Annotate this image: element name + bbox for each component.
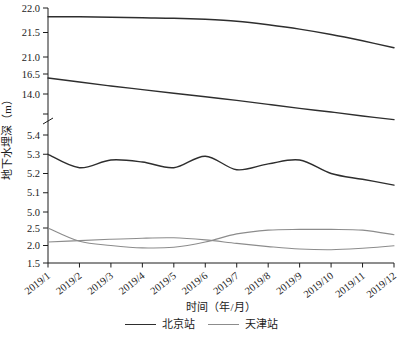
series-line-tianjin-well-2: [48, 238, 394, 250]
y-tick-label: 16.5: [22, 69, 40, 80]
legend-line-swatch: [208, 324, 239, 325]
y-tick-label: 2.0: [27, 240, 40, 251]
legend-line-swatch: [125, 324, 156, 325]
y-tick-label: 5.3: [27, 149, 40, 160]
series-line-beijing-well-1: [48, 17, 394, 48]
y-axis-title: 地下水埋深（m）: [1, 94, 13, 180]
x-tick-label: 2019/12: [364, 270, 398, 300]
y-tick-label: 14.0: [22, 89, 40, 100]
legend: 北京站天津站: [0, 319, 403, 330]
x-tick-label: 2019/7: [211, 270, 241, 297]
legend-label: 北京站: [162, 319, 195, 330]
legend-label: 天津站: [245, 319, 278, 330]
y-tick-label: 5.1: [27, 187, 40, 198]
series-line-beijing-well-3: [48, 154, 394, 185]
x-tick-label: 2019/2: [54, 270, 84, 297]
series-line-tianjin-well-1: [48, 228, 394, 248]
y-tick-label: 22.0: [22, 3, 40, 14]
y-tick-label: 5.0: [27, 207, 40, 218]
x-tick-label: 2019/6: [180, 270, 210, 297]
y-tick-label: 21.5: [22, 27, 40, 38]
y-tick-label: 5.4: [27, 130, 41, 141]
y-tick-label: 21.0: [22, 52, 40, 63]
axis-spines: [48, 8, 394, 263]
legend-item-0: 北京站: [125, 319, 195, 330]
x-axis-title: 时间（年/月）: [186, 300, 255, 313]
x-tick-label: 2019/5: [148, 270, 178, 297]
groundwater-depth-figure: 时间（年/月） 地下水埋深（m） 22.021.521.016.514.05.4…: [0, 0, 403, 339]
x-tick-label: 2019/10: [301, 270, 335, 300]
y-tick-label: 1.5: [27, 258, 40, 269]
y-tick-label: 5.2: [27, 168, 40, 179]
y-tick-label: 2.5: [27, 223, 40, 234]
series-line-beijing-well-2: [48, 78, 394, 120]
chart-canvas: 时间（年/月） 地下水埋深（m） 22.021.521.016.514.05.4…: [0, 0, 403, 339]
x-tick-label: 2019/11: [333, 270, 367, 300]
x-tick-label: 2019/4: [117, 269, 147, 296]
x-tick-label: 2019/3: [85, 270, 115, 297]
x-tick-label: 2019/8: [243, 270, 273, 297]
x-tick-label: 2019/1: [22, 270, 52, 297]
legend-item-1: 天津站: [208, 319, 278, 330]
x-tick-label: 2019/9: [274, 270, 304, 297]
